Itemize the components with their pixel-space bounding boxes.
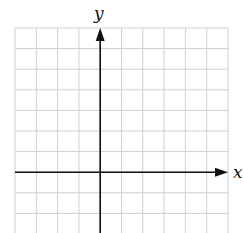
x-axis-label: x — [233, 162, 243, 182]
y-axis-label: y — [93, 3, 104, 23]
coordinate-plane: x y — [0, 0, 244, 233]
y-axis-arrow-icon — [96, 28, 105, 41]
grid-lines — [15, 28, 228, 233]
x-axis-arrow-icon — [215, 168, 228, 177]
